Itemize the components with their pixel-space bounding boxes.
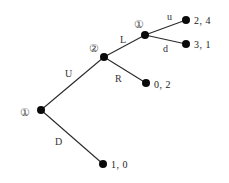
root-node <box>37 106 45 114</box>
action-label-R: R <box>115 73 122 84</box>
player2-node <box>100 53 108 61</box>
action-label-U: U <box>65 68 73 79</box>
edge-U <box>41 57 104 110</box>
player-label-root: ① <box>20 106 30 119</box>
terminal-node-ud <box>182 40 190 48</box>
action-label-u: u <box>167 11 172 22</box>
player-label-p1b: ① <box>134 18 144 31</box>
terminal-node-D <box>99 160 107 168</box>
payoff-D: 1, 0 <box>111 159 128 170</box>
edge-D <box>41 110 103 164</box>
player1-second-node <box>141 31 149 39</box>
game-tree: ① ② ① U D L R u d 2, 4 3, 1 0, 2 1, 0 <box>0 0 229 183</box>
action-label-D: D <box>55 136 62 147</box>
player-label-p2: ② <box>89 42 99 55</box>
edge-R <box>104 57 146 83</box>
terminal-node-R <box>142 79 150 87</box>
payoff-R: 0, 2 <box>154 79 171 90</box>
terminal-node-uu <box>182 16 190 24</box>
edge-u <box>145 20 186 35</box>
payoff-uu: 2, 4 <box>194 15 211 26</box>
action-label-d: d <box>163 43 168 54</box>
action-label-L: L <box>120 34 126 45</box>
payoff-ud: 3, 1 <box>194 39 211 50</box>
